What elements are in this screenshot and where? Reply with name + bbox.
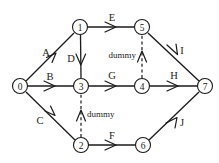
edge-B-label: B [46, 71, 53, 82]
edge-F[interactable]: F [89, 130, 135, 151]
node-3[interactable]: 3 [74, 79, 89, 94]
node-3-label: 3 [79, 82, 84, 92]
edge-D[interactable]: D [67, 35, 85, 78]
edge-B[interactable]: B [28, 71, 73, 92]
edge-C[interactable]: C [26, 92, 75, 140]
edge-C-arrowhead [45, 106, 55, 116]
node-0[interactable]: 0 [13, 79, 28, 94]
edge-C-label: C [36, 115, 43, 126]
node-5[interactable]: 5 [135, 20, 150, 35]
edge-G[interactable]: G [89, 70, 134, 92]
edge-D-label: D [67, 53, 75, 64]
edge-C-line [26, 92, 75, 140]
edge-I-label: I [180, 45, 184, 56]
edge-G-label: G [108, 70, 116, 81]
node-4[interactable]: 4 [135, 79, 150, 94]
edge-J-label: J [180, 117, 184, 128]
node-7[interactable]: 7 [198, 79, 213, 94]
node-1[interactable]: 1 [73, 20, 88, 35]
edge-dummy-upper-label: dummy [108, 50, 136, 60]
edge-E-label: E [109, 12, 115, 23]
node-6[interactable]: 6 [136, 138, 151, 153]
edge-J[interactable]: J [149, 92, 199, 140]
node-0-label: 0 [18, 82, 23, 92]
edge-A-label: A [42, 47, 50, 58]
node-1-label: 1 [78, 23, 83, 33]
edge-D-line [81, 35, 82, 78]
network-diagram-canvas: A B C D [0, 0, 219, 163]
node-4-label: 4 [140, 82, 145, 92]
edge-group-solid: A B C D [26, 12, 199, 151]
edge-E[interactable]: E [88, 12, 134, 33]
node-6-label: 6 [141, 141, 146, 151]
node-2-label: 2 [79, 141, 84, 151]
node-2[interactable]: 2 [74, 138, 89, 153]
edge-J-line [149, 92, 199, 140]
edge-H-label: H [170, 70, 178, 81]
network-diagram: A B C D [0, 0, 219, 163]
node-5-label: 5 [140, 23, 145, 33]
edge-F-label: F [109, 130, 115, 141]
edge-dummy-lower-label: dummy [87, 109, 115, 119]
node-7-label: 7 [203, 82, 208, 92]
